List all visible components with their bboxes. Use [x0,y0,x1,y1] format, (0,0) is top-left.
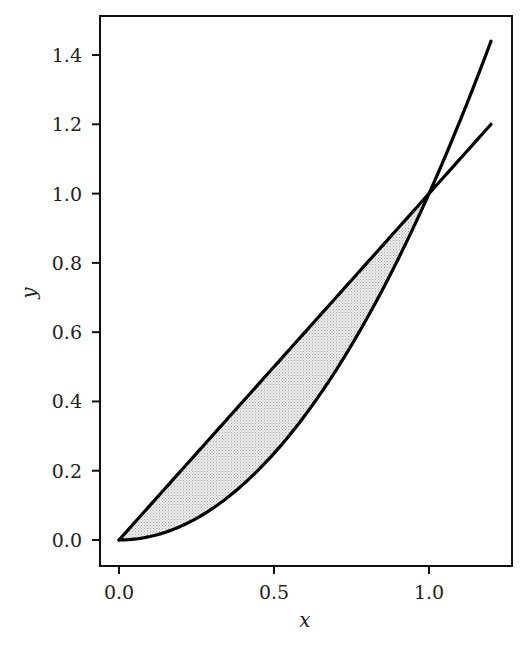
chart: 0.00.51.0 0.00.20.40.60.81.01.21.4 x y [0,0,527,651]
x-axis-label: x [299,608,310,632]
y-axis-ticks: 0.00.20.40.60.81.01.21.4 [52,44,100,551]
curve-y-equals-x-squared [119,41,491,540]
x-axis-ticks: 0.00.51.0 [104,566,444,603]
y-tick-label: 1.4 [52,44,82,66]
x-tick-label: 0.5 [259,581,289,603]
curves [119,41,491,540]
x-tick-label: 0.0 [104,581,134,603]
y-tick-label: 1.0 [52,183,82,205]
y-tick-label: 0.4 [52,390,82,412]
curve-y-equals-x [119,124,491,540]
x-tick-label: 1.0 [414,581,444,603]
y-tick-label: 0.6 [52,321,82,343]
y-tick-label: 1.2 [52,113,82,135]
y-axis-label: y [17,287,41,300]
axes-frame [100,16,512,566]
y-tick-label: 0.0 [52,529,82,551]
y-tick-label: 0.8 [52,252,82,274]
y-tick-label: 0.2 [52,460,82,482]
